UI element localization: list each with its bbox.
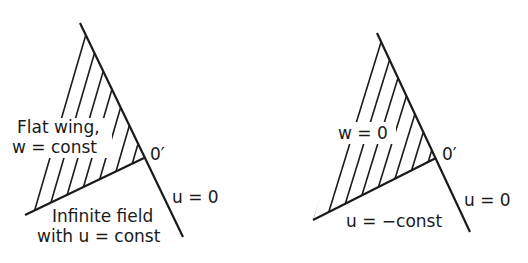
- u-minus-const-label: u = −const: [346, 212, 442, 231]
- flat-wing-label: Flat wing,: [17, 118, 100, 137]
- left-edge-label: u = 0: [172, 188, 219, 207]
- infinite-field-label: Infinite field: [52, 207, 153, 226]
- w-zero-label: w = 0: [338, 124, 388, 143]
- right-vertex-label: 0′: [442, 145, 457, 164]
- right-edge-label: u = 0: [464, 191, 511, 210]
- left-vertex-label: 0′: [150, 145, 165, 164]
- u-const-label: with u = const: [37, 227, 160, 246]
- w-const-label: w = const: [12, 138, 97, 157]
